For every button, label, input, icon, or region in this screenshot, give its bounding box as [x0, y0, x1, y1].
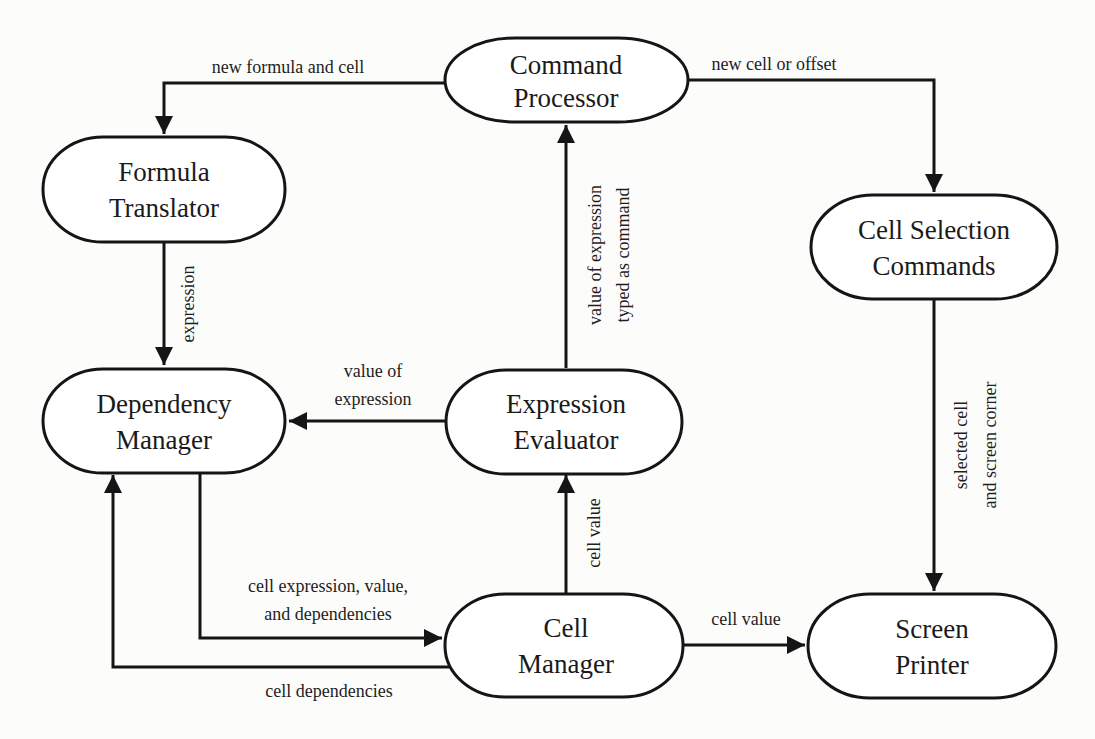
node-label: Formula	[118, 157, 210, 187]
edge-expression-evaluator-to-command-processor: value of expression typed as command	[566, 125, 633, 368]
node-label: Translator	[109, 193, 219, 223]
node-label: Printer	[895, 650, 969, 680]
edge-label: and screen corner	[980, 382, 1000, 509]
node-label: Evaluator	[514, 425, 619, 455]
edge-label: and dependencies	[264, 604, 391, 624]
node-cell-manager: Cell Manager	[445, 594, 683, 697]
edge-formula-translator-to-dependency-manager: expression	[164, 242, 198, 365]
edge-label: cell value	[711, 609, 780, 629]
node-label: Command	[510, 50, 623, 80]
node-label: Manager	[116, 425, 212, 455]
node-command-processor: Command Processor	[445, 38, 688, 122]
edge-label: cell value	[584, 498, 604, 567]
edge-label: value of	[344, 361, 402, 381]
edge-label: cell dependencies	[265, 681, 392, 701]
edge-command-processor-to-formula-translator: new formula and cell	[164, 57, 445, 134]
edge-expression-evaluator-to-dependency-manager: value of expression	[289, 361, 446, 421]
edge-label: selected cell	[951, 401, 971, 489]
node-label: Expression	[506, 389, 626, 419]
node-expression-evaluator: Expression Evaluator	[446, 370, 682, 474]
edge-label: expression	[335, 389, 412, 409]
node-formula-translator: Formula Translator	[43, 137, 285, 242]
edge-cell-manager-to-expression-evaluator: cell value	[566, 475, 604, 593]
edge-label: value of expression	[585, 185, 605, 325]
edge-label: new formula and cell	[212, 57, 364, 77]
node-label: Dependency	[97, 389, 232, 419]
node-label: Screen	[895, 614, 969, 644]
spreadsheet-architecture-diagram: new formula and cell new cell or offset …	[0, 0, 1095, 739]
node-label: Cell	[544, 613, 589, 643]
edge-label: new cell or offset	[711, 54, 836, 74]
node-label: Cell Selection	[858, 215, 1011, 245]
edge-label: expression	[178, 266, 198, 343]
edge-label: typed as command	[613, 188, 633, 323]
edge-cell-selection-commands-to-screen-printer: selected cell and screen corner	[934, 299, 1000, 591]
edge-label: cell expression, value,	[248, 576, 408, 596]
node-label: Processor	[514, 83, 619, 113]
node-label: Manager	[518, 649, 614, 679]
edge-cell-manager-to-screen-printer: cell value	[683, 609, 805, 645]
node-cell-selection-commands: Cell Selection Commands	[811, 195, 1057, 299]
node-dependency-manager: Dependency Manager	[43, 369, 285, 473]
node-screen-printer: Screen Printer	[808, 594, 1056, 698]
arrow-icon	[688, 80, 934, 192]
edge-dependency-manager-to-cell-manager: cell expression, value, and dependencies	[200, 474, 442, 638]
arrow-icon	[164, 83, 445, 134]
node-label: Commands	[872, 251, 995, 281]
edge-command-processor-to-cell-selection-commands: new cell or offset	[688, 54, 934, 192]
